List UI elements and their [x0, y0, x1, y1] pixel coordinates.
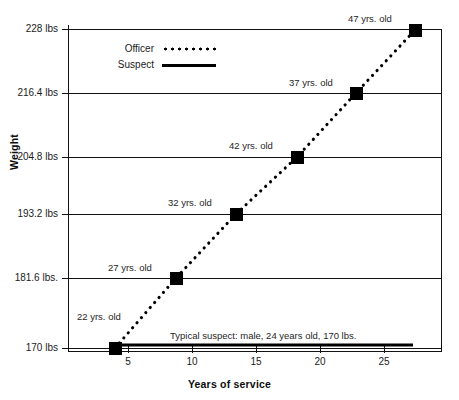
gridline-181-6: [68, 278, 442, 279]
legend-swatch-solid-icon: [162, 64, 216, 67]
y-axis-line: [68, 25, 69, 352]
x-axis-label-10: 10: [172, 357, 212, 367]
legend-label-suspect: Suspect: [98, 59, 154, 70]
y-tick-170: [62, 348, 69, 349]
y-axis-label-193-2: 193.2 lbs: [17, 209, 58, 219]
y-tick-193-2: [62, 214, 69, 215]
gridline-193-2: [68, 214, 442, 215]
x-tick-5: [128, 345, 129, 353]
legend-item-suspect: Suspect: [98, 58, 216, 74]
annotation-32yrs: 32 yrs. old: [168, 198, 212, 208]
x-tick-20: [320, 345, 321, 353]
data-point-32yrs: [230, 208, 243, 221]
legend-item-officer: Officer: [98, 42, 216, 58]
data-point-27yrs: [170, 272, 183, 285]
x-tick-15: [256, 345, 257, 353]
x-axis-line: [68, 351, 442, 352]
legend-swatch-dotted-icon: [162, 47, 216, 51]
annotation-42yrs: 42 yrs. old: [229, 141, 273, 151]
data-point-42yrs: [291, 151, 304, 164]
annotation-37yrs: 37 yrs. old: [289, 78, 333, 88]
annotation-22yrs: 22 yrs. old: [77, 312, 121, 322]
x-axis-title: Years of service: [0, 378, 459, 390]
plot-right-border: [441, 29, 442, 352]
gridline-228: [68, 29, 442, 30]
x-axis-label-15: 15: [236, 357, 276, 367]
y-axis-title: Weight: [8, 134, 20, 170]
chart-legend: Officer Suspect: [98, 42, 216, 74]
data-point-37yrs: [350, 87, 363, 100]
annotation-47yrs: 47 yrs. old: [348, 14, 392, 24]
y-axis-label-228: 228 lbs: [26, 24, 58, 34]
weight-vs-service-chart: 228 lbs 216.4 lbs 204.8 lbs 193.2 lbs 18…: [0, 0, 459, 400]
y-axis-label-181-6: 181.6 lbs.: [15, 273, 58, 283]
x-tick-25: [384, 345, 385, 353]
data-point-47yrs: [409, 24, 422, 37]
gridline-216-4: [68, 93, 442, 94]
x-axis-label-20: 20: [300, 357, 340, 367]
y-tick-216-4: [62, 93, 69, 94]
y-tick-181-6: [62, 278, 69, 279]
x-axis-label-5: 5: [108, 357, 148, 367]
y-axis-label-170: 170 lbs: [26, 343, 58, 353]
y-axis-label-204-8: 204.8 lbs: [17, 152, 58, 162]
gridline-170: [68, 348, 442, 349]
annotation-27yrs: 27 yrs. old: [108, 263, 152, 273]
x-tick-10: [192, 345, 193, 353]
y-axis-label-216-4: 216.4 lbs: [17, 88, 58, 98]
annotation-typical-suspect: Typical suspect: male, 24 years old, 170…: [170, 331, 356, 341]
data-point-22yrs: [109, 342, 122, 355]
gridline-204-8: [68, 157, 442, 158]
y-tick-204-8: [62, 157, 69, 158]
x-axis-label-25: 25: [364, 357, 404, 367]
y-tick-228: [62, 29, 69, 30]
legend-label-officer: Officer: [98, 43, 154, 54]
